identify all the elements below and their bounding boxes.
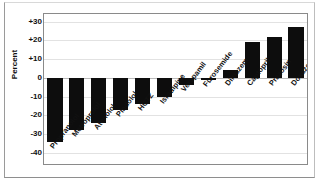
bar xyxy=(91,78,106,123)
bar xyxy=(267,37,282,78)
y-tick-label: +20 xyxy=(16,36,42,44)
bar xyxy=(157,78,172,97)
bar xyxy=(179,78,194,86)
y-tick-label: +10 xyxy=(16,55,42,63)
bar xyxy=(135,78,150,104)
bar-series xyxy=(44,14,307,164)
bar xyxy=(288,27,303,78)
plot-area: PropranololMetroprololAtenololPindololHC… xyxy=(43,13,308,165)
y-tick-label: -30 xyxy=(16,130,42,138)
bar xyxy=(223,70,238,78)
y-tick-label: -40 xyxy=(16,149,42,157)
y-axis-tick-labels: +30 +20 +10 0 -10 -20 -30 -40 xyxy=(16,14,42,140)
y-tick-label: -20 xyxy=(16,111,42,119)
y-tick-label: 0 xyxy=(16,74,42,82)
bar xyxy=(69,78,84,131)
y-tick-label: -10 xyxy=(16,93,42,101)
bar xyxy=(47,78,62,142)
bar xyxy=(201,78,216,80)
y-tick-label: +30 xyxy=(16,18,42,26)
bar xyxy=(245,42,260,78)
bar xyxy=(113,78,128,110)
chart-figure: Percent +30 +20 +10 0 -10 -20 -30 -40 Pr… xyxy=(0,0,319,182)
